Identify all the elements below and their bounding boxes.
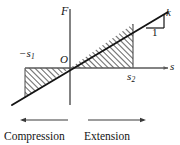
compression-direction-arrow bbox=[20, 118, 68, 123]
axis-label-displacement: s bbox=[170, 61, 174, 72]
extension-direction-arrow bbox=[88, 118, 146, 123]
label-s2: s2 bbox=[127, 71, 135, 84]
extension-work-region bbox=[68, 22, 136, 70]
spring-force-deformation-figure: F O s −s1 s2 k 1 Compression Extension bbox=[0, 0, 180, 145]
label-s2-subscript: 2 bbox=[132, 75, 136, 84]
label-negative-s1-base: −s bbox=[19, 47, 31, 59]
label-negative-s1: −s1 bbox=[19, 48, 35, 61]
label-slope-run: 1 bbox=[152, 27, 158, 38]
label-slope-k: k bbox=[166, 7, 171, 18]
spring-characteristic-line bbox=[12, 12, 168, 105]
caption-extension: Extension bbox=[84, 131, 130, 143]
origin-label: O bbox=[60, 54, 68, 65]
axis-label-force: F bbox=[61, 5, 68, 17]
plot-canvas bbox=[0, 0, 180, 145]
label-s2-base: s bbox=[127, 70, 131, 82]
label-negative-s1-subscript: 1 bbox=[31, 52, 35, 61]
caption-compression: Compression bbox=[4, 131, 65, 143]
